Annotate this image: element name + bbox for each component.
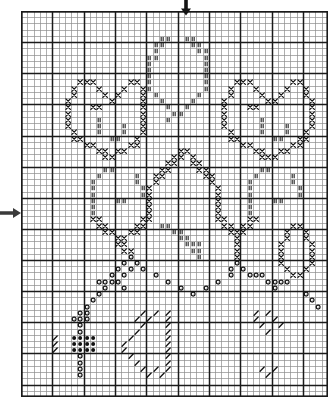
cross-stitch-pattern-page bbox=[0, 0, 332, 404]
center-row-arrow-icon bbox=[0, 206, 22, 220]
center-column-arrow-icon bbox=[179, 0, 193, 16]
pattern-grid[interactable] bbox=[21, 11, 328, 397]
grid-lines-canvas bbox=[21, 11, 328, 397]
